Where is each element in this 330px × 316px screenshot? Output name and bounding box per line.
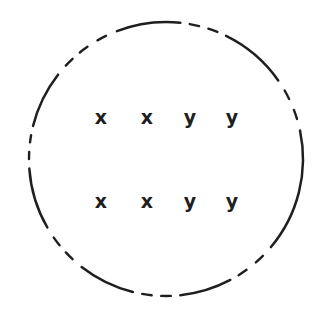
figure-canvas: xxyy xxyy [0, 0, 330, 316]
arc-segment-lower-right-dash-b [239, 270, 247, 275]
dashed-circle-graphic [0, 0, 330, 316]
glyph-label-r2-c1: x [90, 188, 112, 214]
glyph-label-r1-c2: x [136, 104, 158, 130]
arc-segment-right-dash-a [285, 91, 289, 99]
arc-segment-top-long-arc [117, 22, 180, 31]
arc-segment-lower-left-dash-b [54, 238, 60, 246]
arc-segment-lower-right-dash-a [256, 256, 263, 263]
circle-arc-group [29, 22, 303, 296]
arc-segment-bottom-dash-b [142, 294, 151, 295]
glyph-label-r2-c2: x [136, 188, 158, 214]
arc-segment-bottom-left-long-arc [82, 267, 133, 292]
arc-segment-bottom-right-long-arc [180, 280, 230, 295]
glyph-label-r2-c4: y [221, 188, 243, 214]
arc-segment-upper-left-dash-c [98, 36, 106, 40]
arc-segment-upper-right-long-arc [226, 36, 278, 81]
glyph-label-r1-c3: y [179, 104, 201, 130]
arc-segment-upper-left-dash-b [80, 47, 88, 53]
arc-segment-left-dash-b [30, 135, 31, 142]
glyph-label-r1-c1: x [90, 104, 112, 130]
arc-segment-lower-left-dash-a [66, 252, 73, 259]
arc-segment-top-dash-a [190, 24, 199, 26]
glyph-label-r2-c3: y [179, 188, 201, 214]
label-row-top: xxyy [0, 104, 330, 130]
arc-segment-top-dash-b [208, 29, 217, 32]
arc-segment-upper-left-dash-a [66, 59, 73, 66]
glyph-label-r1-c4: y [221, 104, 243, 130]
label-row-bottom: xxyy [0, 188, 330, 214]
